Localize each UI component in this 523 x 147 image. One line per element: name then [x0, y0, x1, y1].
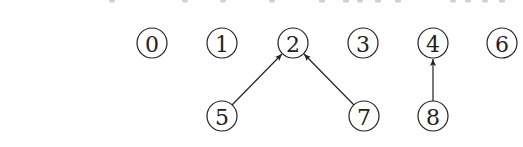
diagram-canvas: 012346578: [0, 0, 523, 147]
node-6: 6: [487, 28, 517, 58]
node-3: 3: [348, 28, 378, 58]
edges: [232, 54, 433, 105]
cropped-glyph-fragment: [375, 0, 381, 3]
cropped-glyph-fragment: [395, 0, 401, 3]
nodes: 012346578: [137, 28, 517, 131]
node-label: 6: [495, 32, 509, 57]
node-label: 5: [215, 105, 229, 130]
node-7: 7: [349, 101, 379, 131]
node-8: 8: [418, 101, 448, 131]
cropped-glyph-fragment: [220, 0, 226, 3]
cropped-top-text-fragments: [109, 0, 505, 3]
node-label: 3: [356, 32, 370, 57]
node-label: 2: [286, 32, 300, 57]
cropped-glyph-fragment: [499, 0, 505, 3]
cropped-glyph-fragment: [343, 0, 349, 3]
cropped-glyph-fragment: [465, 0, 471, 3]
node-5: 5: [207, 101, 237, 131]
node-label: 1: [215, 32, 229, 57]
cropped-glyph-fragment: [357, 0, 363, 3]
edge-7-to-2: [304, 54, 354, 105]
node-0: 0: [137, 28, 167, 58]
cropped-glyph-fragment: [109, 0, 115, 3]
node-4: 4: [418, 28, 448, 58]
cropped-glyph-fragment: [482, 0, 488, 3]
cropped-glyph-fragment: [182, 0, 188, 3]
node-2: 2: [278, 28, 308, 58]
node-label: 8: [426, 105, 440, 130]
cropped-glyph-fragment: [319, 0, 325, 3]
cropped-glyph-fragment: [450, 0, 456, 3]
edge-5-to-2: [232, 54, 282, 105]
cropped-glyph-fragment: [269, 0, 275, 3]
node-label: 4: [426, 32, 440, 57]
node-label: 0: [145, 32, 159, 57]
node-1: 1: [207, 28, 237, 58]
node-label: 7: [357, 105, 371, 130]
